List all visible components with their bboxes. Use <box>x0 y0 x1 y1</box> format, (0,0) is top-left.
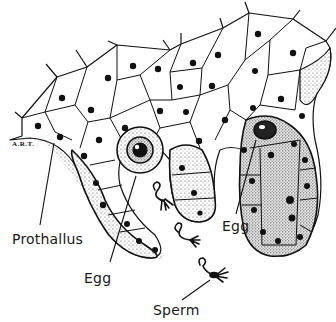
prothallus-leader <box>40 143 54 225</box>
sperm-leader <box>182 280 210 300</box>
label-prothallus: Prothallus <box>12 232 83 246</box>
label-sperm: Sperm <box>153 303 200 317</box>
sperm-2 <box>175 223 200 247</box>
egg-left <box>117 127 163 173</box>
sperm-3 <box>199 258 228 282</box>
label-egg-left: Egg <box>84 271 111 285</box>
artist-signature: A.R.T. <box>12 140 35 148</box>
prothallus-diagram <box>0 0 336 322</box>
sperm-1 <box>153 182 173 210</box>
label-egg-right: Egg <box>222 219 249 233</box>
egg-right <box>254 121 276 139</box>
